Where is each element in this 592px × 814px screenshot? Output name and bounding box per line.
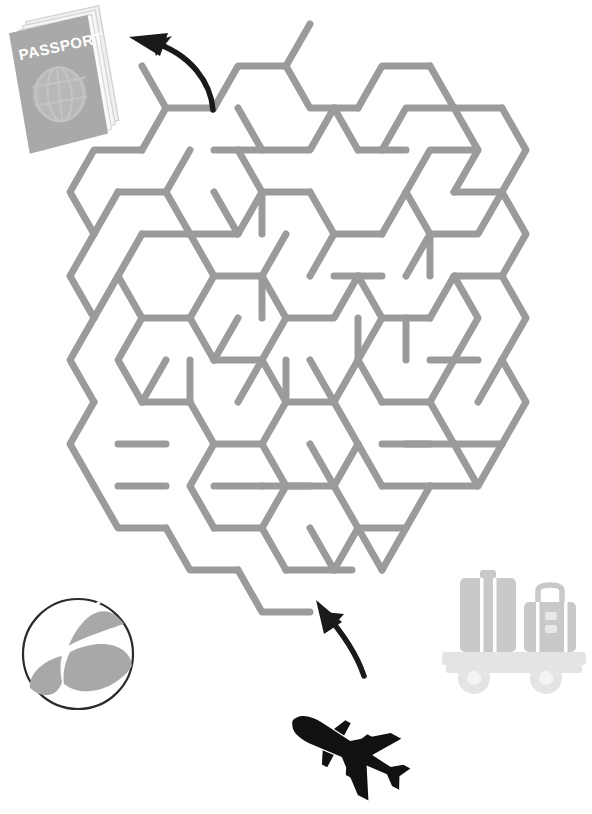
suitcase-large [460, 570, 516, 652]
suitcase-small [524, 585, 576, 652]
luggage-cart [0, 0, 592, 814]
puzzle-canvas: PASSPORT [0, 0, 592, 814]
